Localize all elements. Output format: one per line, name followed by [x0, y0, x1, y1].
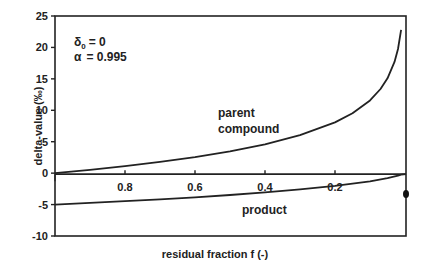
x-axis-title: residual fraction f (-) — [162, 248, 269, 260]
annotation-product: product — [242, 203, 287, 217]
parameter-box: δ0= 0 α= 0.995 — [74, 35, 127, 64]
y-tick-label: 20 — [36, 41, 48, 53]
y-axis-title: delta-value (‰) — [32, 86, 44, 165]
annotation-parent: parent — [218, 106, 255, 120]
annotations: parentcompoundproduct — [218, 106, 287, 217]
y-tick-label: 25 — [36, 10, 48, 22]
x-tick-label: 0.6 — [187, 181, 202, 193]
y-tick-label: -10 — [32, 230, 48, 242]
series-line-product — [55, 175, 401, 205]
x-axis: 0.80.60.40.2 — [55, 170, 406, 193]
alpha-parameter: α= 0.995 — [74, 50, 127, 64]
x-tick-label: 0.8 — [117, 181, 132, 193]
y-tick-label: 0 — [42, 167, 48, 179]
delta0-parameter: δ0= 0 — [74, 35, 106, 51]
series-line-product-tail — [401, 174, 406, 175]
y-tick-label: -5 — [38, 199, 48, 211]
chart: 2520151050-5-10 0.80.60.40.2 parentcompo… — [0, 0, 426, 275]
y-tick-label: 15 — [36, 73, 48, 85]
annotation-compound: compound — [218, 122, 279, 136]
end-point-marker — [403, 190, 409, 198]
